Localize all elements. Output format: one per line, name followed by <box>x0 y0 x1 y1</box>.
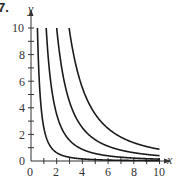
x-tick-6: 6 <box>105 165 111 179</box>
y-tick-10: 10 <box>12 21 24 36</box>
plot-area <box>0 0 176 179</box>
curve-1 <box>37 28 159 161</box>
y-tick-4: 4 <box>19 101 25 116</box>
x-tick-8: 8 <box>131 165 137 179</box>
curve-4 <box>69 28 159 149</box>
y-tick-2: 2 <box>19 128 25 143</box>
x-tick-0: 0 <box>27 165 33 179</box>
y-tick-6: 6 <box>19 75 25 90</box>
x-tick-10: 10 <box>153 165 165 179</box>
y-tick-8: 8 <box>19 48 25 63</box>
y-axis-label: y <box>28 2 33 17</box>
curve-2 <box>46 28 159 159</box>
y-tick-0: 0 <box>19 154 25 169</box>
x-tick-2: 2 <box>53 165 59 179</box>
x-axis-label: x <box>167 153 172 168</box>
x-tick-4: 4 <box>79 165 85 179</box>
